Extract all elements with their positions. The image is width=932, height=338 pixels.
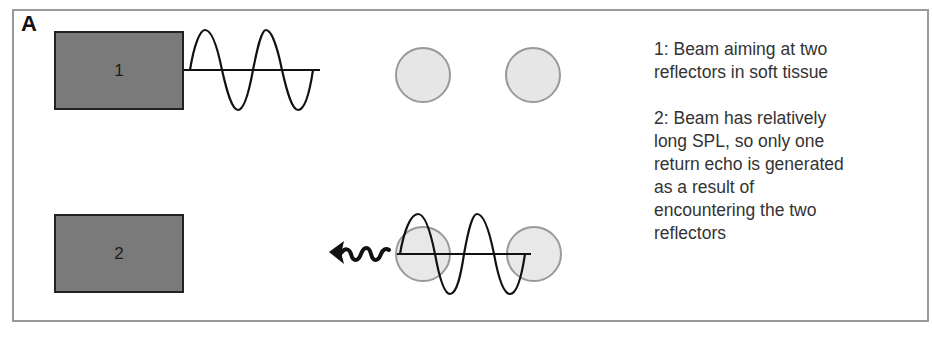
caption-2-line: reflectors	[654, 222, 924, 245]
caption-2-line: return echo is generated	[654, 153, 924, 176]
pulse-wave-2	[397, 214, 531, 294]
caption-2-line: 2: Beam has relatively	[654, 107, 924, 130]
pulse-wave-1	[184, 30, 320, 110]
caption-1-line: 1: Beam aiming at two	[654, 38, 924, 61]
caption-1: 1: Beam aiming at two reflectors in soft…	[654, 38, 924, 84]
caption-2-line: long SPL, so only one	[654, 130, 924, 153]
reflector-1b	[506, 48, 560, 102]
echo-arrow-icon	[329, 241, 389, 264]
caption-2-line: encountering the two	[654, 199, 924, 222]
caption-2-line: as a result of	[654, 176, 924, 199]
caption-2: 2: Beam has relatively long SPL, so only…	[654, 107, 924, 245]
reflector-1a	[396, 48, 450, 102]
caption-1-line: reflectors in soft tissue	[654, 61, 924, 84]
